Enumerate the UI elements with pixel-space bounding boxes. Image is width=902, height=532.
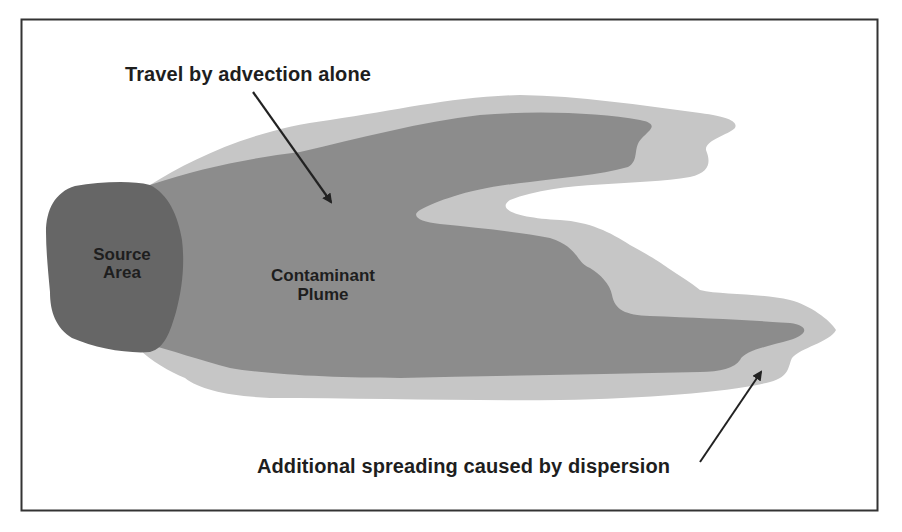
dispersion-label: Additional spreading caused by dispersio… [257,456,670,476]
source-area-label-line2: Area [80,264,164,282]
plume-diagram: Travel by advection alone Additional spr… [0,0,902,532]
contaminant-plume-label: Contaminant Plume [250,266,396,304]
source-area-label-line1: Source [80,246,164,264]
contaminant-plume-label-line2: Plume [250,285,396,304]
source-area-label: Source Area [80,246,164,282]
contaminant-plume-label-line1: Contaminant [250,266,396,285]
advection-label: Travel by advection alone [125,64,371,84]
